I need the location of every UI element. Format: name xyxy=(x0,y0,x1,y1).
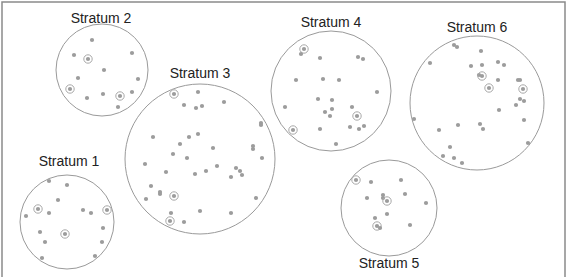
population-unit-dot xyxy=(356,55,360,59)
stratum-label: Stratum 1 xyxy=(39,153,100,169)
population-unit-dot xyxy=(428,61,432,65)
population-unit-dot xyxy=(204,169,208,173)
selected-unit-dot xyxy=(105,208,109,212)
population-unit-dot xyxy=(130,51,134,55)
population-unit-dot xyxy=(437,128,441,132)
population-unit-dot xyxy=(164,170,168,174)
population-unit-dot xyxy=(375,90,379,94)
stratum-1: Stratum 1 xyxy=(20,153,114,269)
population-unit-dot xyxy=(361,57,365,61)
population-unit-dot xyxy=(24,214,28,218)
population-unit-dot xyxy=(479,49,483,53)
population-unit-dot xyxy=(408,223,412,227)
population-unit-dot xyxy=(130,90,134,94)
population-unit-dot xyxy=(185,156,189,160)
population-unit-dot xyxy=(89,211,93,215)
population-unit-dot xyxy=(469,64,473,68)
selected-unit-dot xyxy=(385,199,389,203)
population-unit-dot xyxy=(424,201,428,205)
population-unit-dot xyxy=(100,240,104,244)
population-unit-dot xyxy=(76,76,80,80)
population-unit-dot xyxy=(43,240,47,244)
selected-unit-dot xyxy=(521,87,525,91)
population-unit-dot xyxy=(38,230,42,234)
selected-unit-dot xyxy=(291,128,295,132)
population-unit-dot xyxy=(478,122,482,126)
population-unit-dot xyxy=(222,100,226,104)
population-unit-dot xyxy=(194,106,198,110)
population-unit-dot xyxy=(299,52,303,56)
population-unit-dot xyxy=(337,78,341,82)
stratum-4: Stratum 4 xyxy=(271,14,391,151)
population-unit-dot xyxy=(65,183,69,187)
stratum-label: Stratum 4 xyxy=(301,14,362,30)
population-unit-dot xyxy=(330,107,334,111)
population-unit-dot xyxy=(522,99,526,103)
population-unit-dot xyxy=(399,178,403,182)
population-unit-dot xyxy=(460,161,464,165)
population-unit-dot xyxy=(182,103,186,107)
population-unit-dot xyxy=(526,141,530,145)
population-unit-dot xyxy=(234,166,238,170)
population-unit-dot xyxy=(47,211,51,215)
stratum-boundary xyxy=(341,160,437,256)
population-unit-dot xyxy=(323,110,327,114)
population-unit-dot xyxy=(215,164,219,168)
population-unit-dot xyxy=(85,96,89,100)
population-unit-dot xyxy=(294,78,298,82)
population-unit-dot xyxy=(136,77,140,81)
stratum-5: Stratum 5 xyxy=(341,160,437,271)
population-unit-dot xyxy=(518,97,522,101)
stratum-label: Stratum 6 xyxy=(447,19,508,35)
population-unit-dot xyxy=(518,78,522,82)
selected-unit-dot xyxy=(355,114,359,118)
strata-group: Stratum 1Stratum 2Stratum 3Stratum 4Stra… xyxy=(20,10,544,271)
stratum-label: Stratum 5 xyxy=(359,255,420,271)
population-unit-dot xyxy=(497,108,501,112)
selected-unit-dot xyxy=(36,207,40,211)
population-unit-dot xyxy=(178,142,182,146)
selected-unit-dot xyxy=(168,219,172,223)
population-unit-dot xyxy=(144,197,148,201)
population-unit-dot xyxy=(254,196,258,200)
population-unit-dot xyxy=(496,60,500,64)
population-unit-dot xyxy=(196,90,200,94)
selected-unit-dot xyxy=(480,74,484,78)
selected-unit-dot xyxy=(172,92,176,96)
selected-unit-dot xyxy=(487,86,491,90)
population-unit-dot xyxy=(318,127,322,131)
population-unit-dot xyxy=(385,212,389,216)
population-unit-dot xyxy=(334,142,338,146)
population-unit-dot xyxy=(229,211,233,215)
population-unit-dot xyxy=(448,145,452,149)
population-unit-dot xyxy=(456,123,460,127)
diagram-canvas: Stratum 1Stratum 2Stratum 3Stratum 4Stra… xyxy=(0,0,569,277)
population-unit-dot xyxy=(182,220,186,224)
population-unit-dot xyxy=(348,125,352,129)
population-unit-dot xyxy=(481,127,485,131)
population-unit-dot xyxy=(238,169,242,173)
stratum-boundary xyxy=(271,31,391,151)
population-unit-dot xyxy=(90,38,94,42)
population-unit-dot xyxy=(259,123,263,127)
population-unit-dot xyxy=(169,211,173,215)
population-unit-dot xyxy=(151,135,155,139)
population-unit-dot xyxy=(318,56,322,60)
population-unit-dot xyxy=(81,208,85,212)
population-unit-dot xyxy=(240,173,244,177)
stratified-sampling-diagram: Stratum 1Stratum 2Stratum 3Stratum 4Stra… xyxy=(0,0,569,277)
population-unit-dot xyxy=(350,105,354,109)
population-unit-dot xyxy=(514,103,518,107)
stratum-boundary xyxy=(20,175,114,269)
selected-unit-dot xyxy=(68,87,72,91)
population-unit-dot xyxy=(47,179,51,183)
population-unit-dot xyxy=(143,162,147,166)
population-unit-dot xyxy=(200,104,204,108)
population-unit-dot xyxy=(93,254,97,258)
population-unit-dot xyxy=(171,152,175,156)
population-unit-dot xyxy=(56,198,60,202)
population-unit-dot xyxy=(198,209,202,213)
population-unit-dot xyxy=(158,192,162,196)
population-unit-dot xyxy=(455,45,459,49)
stratum-2: Stratum 2 xyxy=(56,10,148,116)
